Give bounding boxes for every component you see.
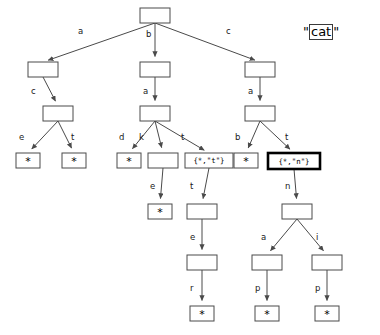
edge-label: p xyxy=(315,283,320,293)
edge-label: b xyxy=(146,29,151,39)
terminal-marker-label: * xyxy=(324,308,330,321)
tree-edge-i xyxy=(297,219,323,251)
tree-node[interactable] xyxy=(140,8,170,23)
tree-node-box[interactable] xyxy=(252,255,282,270)
tree-node[interactable] xyxy=(43,106,73,121)
tree-node-box[interactable] xyxy=(245,62,275,77)
tree-edge-b xyxy=(248,121,260,148)
tree-edge-t xyxy=(58,121,72,148)
tree-edge-k xyxy=(155,121,162,148)
edge-label: a xyxy=(248,86,253,96)
tree-node[interactable] xyxy=(187,204,217,219)
terminal-marker-label: * xyxy=(71,155,77,168)
tree-node-box[interactable] xyxy=(312,255,342,270)
tree-node[interactable] xyxy=(148,153,178,168)
edge-label: r xyxy=(190,283,194,293)
edge-label: e xyxy=(19,132,24,142)
tree-node[interactable]: {*,"t"} xyxy=(185,153,233,168)
tree-node-box[interactable] xyxy=(187,204,217,219)
edge-label: c xyxy=(226,26,231,36)
tree-node[interactable] xyxy=(28,62,58,77)
tree-node[interactable]: {*,"n"} xyxy=(268,153,320,169)
trie-svg-canvas: ***{*,"t"}*{*,"n"}**** abccaaetdktbtetne… xyxy=(0,0,380,335)
trie-diagram: ***{*,"t"}*{*,"n"}**** abccaaetdktbtetne… xyxy=(0,0,380,335)
tree-node[interactable]: * xyxy=(117,153,141,168)
edge-label: t xyxy=(71,132,75,142)
tree-edge-e xyxy=(32,121,58,149)
tree-node-box[interactable] xyxy=(140,8,170,23)
node-set-label: {*,"t"} xyxy=(193,156,224,165)
tree-node[interactable]: * xyxy=(255,306,279,321)
tree-node-box[interactable] xyxy=(245,106,275,121)
terminal-marker-label: * xyxy=(126,155,132,168)
tree-node[interactable] xyxy=(245,106,275,121)
tree-node[interactable]: * xyxy=(190,306,214,321)
tree-node-box[interactable] xyxy=(140,106,170,121)
edge-label: a xyxy=(143,86,148,96)
edge-label: p xyxy=(255,283,260,293)
edge-label: k xyxy=(139,132,144,142)
tree-node[interactable]: * xyxy=(62,153,86,168)
tree-edge-e xyxy=(160,168,163,199)
node-set-label: {*,"n"} xyxy=(278,157,309,166)
edge-label: a xyxy=(261,232,266,242)
query-string-label: "cat" xyxy=(303,24,339,40)
tree-edge-c xyxy=(43,77,55,101)
tree-node-box[interactable] xyxy=(28,62,58,77)
tree-node[interactable] xyxy=(282,204,312,219)
terminal-marker-label: * xyxy=(199,308,205,321)
tree-node[interactable]: * xyxy=(234,153,258,168)
tree-node-box[interactable] xyxy=(148,153,178,168)
edge-label: a xyxy=(78,26,83,36)
terminal-marker-label: * xyxy=(157,206,163,219)
tree-node-box[interactable] xyxy=(282,204,312,219)
terminal-marker-label: * xyxy=(25,155,31,168)
tree-edge-a xyxy=(48,23,155,60)
tree-edge-t xyxy=(155,121,204,150)
edge-label: b xyxy=(235,132,240,142)
edge-label: t xyxy=(190,181,194,191)
tree-node-box[interactable] xyxy=(140,62,170,77)
edge-label: d xyxy=(119,132,124,142)
edge-label: e xyxy=(190,232,195,242)
tree-node[interactable] xyxy=(187,255,217,270)
tree-node-box[interactable] xyxy=(43,106,73,121)
edge-label: t xyxy=(181,132,185,142)
edge-label: e xyxy=(150,181,155,191)
tree-edge-a xyxy=(271,219,297,251)
tree-node[interactable]: * xyxy=(16,153,40,168)
edge-label: c xyxy=(31,86,36,96)
tree-node[interactable] xyxy=(252,255,282,270)
terminal-marker-label: * xyxy=(243,155,249,168)
tree-node[interactable]: * xyxy=(315,306,339,321)
tree-node-box[interactable] xyxy=(187,255,217,270)
tree-edge-c xyxy=(155,23,255,60)
tree-node[interactable] xyxy=(140,62,170,77)
terminal-marker-label: * xyxy=(264,308,270,321)
tree-edge-t xyxy=(203,168,209,199)
edge-label: t xyxy=(285,132,289,142)
tree-edge-n xyxy=(294,169,297,199)
tree-node[interactable]: * xyxy=(148,204,172,219)
edge-label: n xyxy=(285,181,290,191)
tree-node[interactable] xyxy=(312,255,342,270)
nodes-layer: ***{*,"t"}*{*,"n"}**** xyxy=(16,8,342,321)
query-close-quote: " xyxy=(333,24,339,39)
tree-node[interactable] xyxy=(140,106,170,121)
tree-node[interactable] xyxy=(245,62,275,77)
query-boxed-text: cat xyxy=(309,24,333,40)
edge-label: i xyxy=(316,232,318,242)
